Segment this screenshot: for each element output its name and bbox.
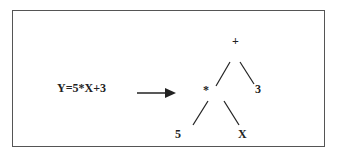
edge-plus-three <box>240 62 254 84</box>
node-five: 5 <box>175 128 181 140</box>
edge-plus-mul <box>216 62 230 86</box>
edge-mul-five <box>193 101 208 125</box>
node-x: X <box>238 128 247 140</box>
node-multiply: * <box>203 84 209 96</box>
edge-mul-x <box>224 101 239 125</box>
tree-edges <box>0 0 338 155</box>
node-plus: + <box>232 35 239 47</box>
node-three: 3 <box>255 83 261 95</box>
arrow-right-icon <box>137 88 176 98</box>
